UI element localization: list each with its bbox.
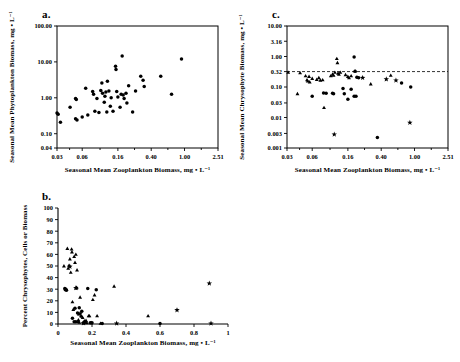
- data-point-circle: [170, 93, 173, 96]
- data-point-triangle: [389, 73, 393, 76]
- data-point-triangle: [322, 106, 326, 109]
- panel-letter: b.: [42, 190, 51, 202]
- x-axis-label: Seasonal Mean Zooplankton Biomass, mg • …: [70, 339, 215, 347]
- y-tick-label: 30: [47, 286, 53, 293]
- data-point-star: [208, 321, 213, 326]
- data-point-circle: [139, 74, 142, 77]
- data-point-triangle: [74, 252, 78, 255]
- panel-a: a.0.030.060.160.401.002.510.040.101.0010…: [0, 0, 230, 181]
- data-point-triangle: [69, 270, 73, 273]
- panel-c-plot: c.0.030.060.160.401.002.510.0010.0030.01…: [230, 0, 460, 181]
- panel-a-plot: a.0.030.060.160.401.002.510.040.101.0010…: [0, 0, 230, 181]
- x-tick-label: 0.06: [77, 153, 89, 160]
- data-point-triangle: [65, 247, 69, 250]
- data-point-circle: [324, 92, 327, 95]
- data-point-circle: [141, 78, 144, 81]
- series-lakes: [55, 54, 183, 124]
- data-point-circle: [124, 91, 127, 94]
- data-point-star: [360, 75, 365, 80]
- y-tick-label: 50: [47, 262, 53, 269]
- data-point-circle: [74, 320, 77, 323]
- y-tick-label: 0.04: [41, 144, 53, 151]
- y-tick-label: 20: [47, 297, 53, 304]
- x-tick-label: 0.40: [146, 153, 157, 160]
- data-point-circle: [131, 110, 134, 113]
- panel-letter: c.: [272, 8, 280, 20]
- panel-letter: a.: [42, 8, 51, 20]
- data-point-circle: [78, 306, 81, 309]
- data-point-circle: [111, 110, 114, 113]
- y-tick-label: 60: [47, 251, 53, 258]
- data-point-triangle: [321, 78, 325, 81]
- data-point-circle: [142, 85, 145, 88]
- y-tick-label: 0.03: [271, 99, 282, 106]
- data-point-star: [114, 321, 119, 326]
- x-tick-label: 0.40: [376, 153, 387, 160]
- data-point-circle: [116, 95, 119, 98]
- data-point-triangle: [349, 74, 353, 77]
- x-tick-label: 0.06: [307, 153, 319, 160]
- series-triangles: [62, 247, 150, 325]
- data-point-circle: [134, 89, 137, 92]
- data-point-circle: [180, 57, 183, 60]
- data-point-triangle: [146, 314, 150, 317]
- data-point-circle: [357, 76, 360, 79]
- y-tick-label: 0.003: [268, 130, 282, 137]
- x-tick-label: 1.00: [179, 153, 190, 160]
- data-layer: [55, 54, 183, 124]
- y-tick-label: 80: [47, 228, 53, 235]
- x-tick-label: 1: [226, 329, 229, 336]
- y-tick-label: 1.00: [41, 94, 52, 101]
- data-point-triangle: [335, 57, 339, 60]
- data-point-circle: [120, 54, 123, 57]
- y-tick-label: 0.10: [271, 83, 282, 90]
- data-point-circle: [107, 89, 110, 92]
- data-point-circle: [346, 97, 349, 100]
- data-point-circle: [100, 81, 103, 84]
- data-point-triangle: [62, 264, 66, 267]
- x-tick-label: 0: [56, 329, 59, 336]
- x-tick-label: 0.16: [112, 153, 124, 160]
- data-point-circle: [84, 86, 87, 89]
- data-point-circle: [125, 101, 128, 104]
- data-point-triangle: [307, 75, 311, 78]
- data-point-triangle: [70, 247, 74, 250]
- data-point-circle: [86, 113, 89, 116]
- data-point-triangle: [73, 261, 77, 264]
- series-triangles: [286, 57, 392, 109]
- x-tick-label: 0.03: [51, 153, 62, 160]
- y-axis-label: Seasonal Mean Phytoplankton Biomass, mg …: [8, 11, 16, 162]
- data-point-star: [384, 76, 389, 81]
- data-point-circle: [93, 110, 96, 113]
- data-point-circle: [73, 307, 76, 310]
- data-point-circle: [158, 322, 161, 325]
- data-point-triangle: [71, 300, 75, 303]
- data-point-circle: [56, 112, 59, 115]
- data-point-circle: [101, 91, 104, 94]
- data-point-circle: [103, 95, 106, 98]
- panel-c: c.0.030.060.160.401.002.510.0010.0030.01…: [230, 0, 460, 181]
- data-point-circle: [332, 92, 335, 95]
- panel-b: b.00.20.40.60.810102030405060708090100Se…: [18, 180, 248, 362]
- data-point-triangle: [310, 77, 314, 80]
- data-point-circle: [409, 85, 412, 88]
- data-point-circle: [90, 321, 93, 324]
- data-point-circle: [75, 98, 78, 101]
- data-point-circle: [65, 289, 68, 292]
- data-point-circle: [75, 118, 78, 121]
- data-point-star: [393, 78, 398, 83]
- data-point-circle: [115, 90, 118, 93]
- y-tick-label: 0.10: [41, 130, 52, 137]
- y-tick-label: 40: [47, 274, 53, 281]
- x-axis: 00.20.40.60.81: [56, 324, 229, 336]
- x-tick-label: 0.4: [122, 329, 131, 336]
- y-axis-label: Seasonal Mean Chrysophyte Biomass, mg • …: [238, 14, 246, 159]
- data-point-triangle: [75, 268, 79, 271]
- data-point-triangle: [78, 295, 82, 298]
- data-point-triangle: [91, 298, 95, 301]
- data-point-triangle: [93, 293, 97, 296]
- y-tick-label: 10.00: [268, 22, 282, 29]
- plot-frame: [57, 26, 218, 148]
- data-point-star: [207, 281, 212, 286]
- data-point-circle: [352, 55, 355, 58]
